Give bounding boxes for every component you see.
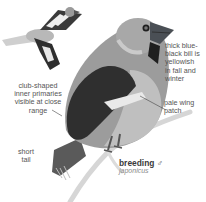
callout-line: winter <box>165 75 200 83</box>
field-guide-plate: thick blue- black bill is yellowish in f… <box>0 0 206 202</box>
callout-primaries: club-shaped inner primaries visible at c… <box>10 82 66 115</box>
male-symbol-icon: ♂ <box>157 158 163 168</box>
callout-bill: thick blue- black bill is yellowish in f… <box>165 42 200 83</box>
callout-line: patch <box>164 107 194 115</box>
callout-wing-patch: pale wing patch <box>164 99 194 115</box>
perched-hawfinch <box>52 18 174 180</box>
caption-subspecies: japonicus <box>119 167 149 174</box>
callout-line: range <box>10 107 66 115</box>
callout-tail: short tail <box>14 148 38 164</box>
flying-hawfinch <box>2 7 82 70</box>
callout-line: tail <box>14 156 38 164</box>
